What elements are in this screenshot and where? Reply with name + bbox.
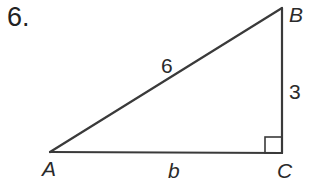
right-angle-marker xyxy=(265,137,282,153)
vertex-label-b: B xyxy=(289,4,303,26)
side-label-ac: b xyxy=(168,160,180,182)
vertex-label-c: C xyxy=(277,160,292,182)
side-ac-leg xyxy=(50,152,282,153)
triangle-edges xyxy=(50,8,282,153)
side-label-ab: 6 xyxy=(161,55,173,77)
side-ab-hypotenuse xyxy=(50,8,282,152)
side-label-bc: 3 xyxy=(289,81,301,103)
vertex-label-a: A xyxy=(42,158,56,180)
